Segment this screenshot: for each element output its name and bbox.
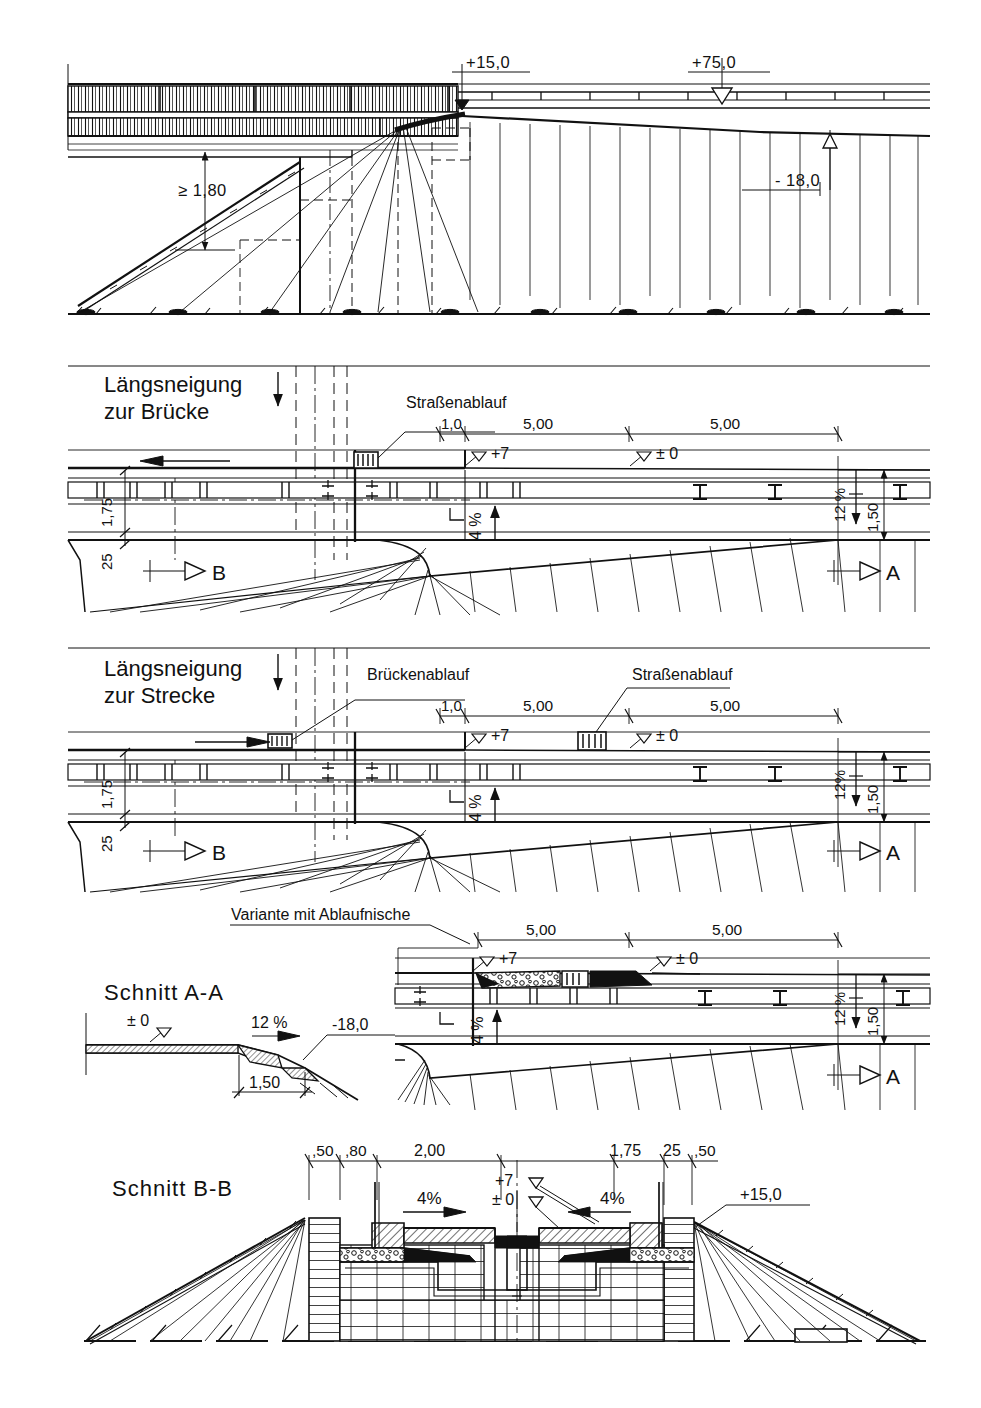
dim-1-75-v2: 1,75 bbox=[98, 498, 115, 527]
bb-slope-4-left: 4% bbox=[417, 1189, 442, 1208]
dim-5-00-a-v3: 5,00 bbox=[523, 697, 554, 714]
section-mark-a-v3: A bbox=[886, 841, 900, 864]
min-clearance-label: ≥ 1,80 bbox=[178, 181, 227, 199]
level-zero-v3: ± 0 bbox=[656, 727, 678, 744]
slope-12-percent-v3: 12% bbox=[831, 770, 848, 800]
view3-title-line2: zur Strecke bbox=[104, 683, 215, 708]
level-plus-7-v3: +7 bbox=[491, 727, 509, 744]
brueckenablauf-symbol-v3 bbox=[268, 734, 292, 748]
bb-dim-50-left: ,50 bbox=[312, 1142, 334, 1159]
bb-dim-50-right: ,50 bbox=[694, 1142, 716, 1159]
slope-12-percent-v2: 12 % bbox=[831, 488, 848, 522]
section-mark-b-v2: B bbox=[212, 561, 226, 584]
dim-1-0-v3: 1,0 bbox=[441, 697, 462, 714]
section-aa-dim-150: 1,50 bbox=[249, 1074, 280, 1091]
slope-4-percent-v2: 4 % bbox=[467, 512, 484, 540]
strassenablauf-symbol-v2 bbox=[354, 452, 378, 468]
bb-level-zero: ± 0 bbox=[492, 1191, 514, 1208]
dim-1-50-v2: 1,50 bbox=[864, 503, 881, 532]
level-plus-75-label: +75,0 bbox=[692, 53, 736, 71]
section-mark-a-v2: A bbox=[886, 561, 900, 584]
variant-level-plus-7: +7 bbox=[499, 950, 517, 967]
bb-dim-2-00: 2,00 bbox=[414, 1142, 445, 1159]
variant-dim-5-00-b: 5,00 bbox=[712, 921, 743, 938]
dim-5-00-a-v2: 5,00 bbox=[523, 415, 554, 432]
slope-4-percent-v3: 4 % bbox=[467, 794, 484, 822]
bb-level-plus-15: +15,0 bbox=[740, 1185, 782, 1203]
callout-brueckenablauf-v3: Brückenablauf bbox=[367, 666, 470, 683]
section-aa-slope-12: 12 % bbox=[251, 1014, 287, 1031]
variant-title: Variante mit Ablaufnische bbox=[231, 906, 410, 923]
level-plus-15-label: +15,0 bbox=[466, 53, 510, 71]
bb-level-plus-7: +7 bbox=[495, 1172, 513, 1189]
variant-level-zero: ± 0 bbox=[676, 950, 698, 967]
variant-dim-5-00-a: 5,00 bbox=[526, 921, 557, 938]
variant-slope-4-percent: 4 % bbox=[469, 1016, 486, 1044]
dim-5-00-b-v2: 5,00 bbox=[710, 415, 741, 432]
variant-dim-1-50: 1,50 bbox=[864, 1007, 881, 1036]
variant-slope-12-percent: 12 % bbox=[831, 992, 848, 1026]
dim-25-v2: 25 bbox=[98, 553, 115, 570]
dim-1-0-v2: 1,0 bbox=[441, 415, 462, 432]
section-aa-title: Schnitt A-A bbox=[104, 980, 224, 1005]
section-aa-level-zero: ± 0 bbox=[127, 1012, 149, 1029]
level-plus-7-v2: +7 bbox=[491, 445, 509, 462]
bb-dim-1-75: 1,75 bbox=[610, 1142, 641, 1159]
view3-title-line1: Längsneigung bbox=[104, 656, 242, 681]
dim-1-50-v3: 1,50 bbox=[864, 785, 881, 814]
strassenablauf-symbol-v3 bbox=[578, 732, 606, 750]
bb-slope-4-right: 4% bbox=[600, 1189, 625, 1208]
callout-strassenablauf-v2: Straßenablauf bbox=[406, 394, 507, 411]
view2-title-line1: Längsneigung bbox=[104, 372, 242, 397]
drawing-canvas: +15,0 +75,0 - 18,0 ≥ 1,80 Längsneigung z… bbox=[0, 0, 981, 1408]
dim-25-v3: 25 bbox=[98, 835, 115, 852]
callout-strassenablauf-v3: Straßenablauf bbox=[632, 666, 733, 683]
view2-title-line2: zur Brücke bbox=[104, 399, 209, 424]
variant-section-mark-a: A bbox=[886, 1065, 900, 1088]
section-aa-level-minus18: -18,0 bbox=[332, 1016, 369, 1033]
level-zero-v2: ± 0 bbox=[656, 445, 678, 462]
level-minus-18-label: - 18,0 bbox=[775, 171, 820, 189]
bb-dim-80: ,80 bbox=[345, 1142, 367, 1159]
drawing-sheet: +15,0 +75,0 - 18,0 ≥ 1,80 Längsneigung z… bbox=[0, 0, 981, 1408]
section-mark-b-v3: B bbox=[212, 841, 226, 864]
dim-1-75-v3: 1,75 bbox=[98, 780, 115, 809]
bb-dim-25: 25 bbox=[663, 1142, 681, 1159]
dim-5-00-b-v3: 5,00 bbox=[710, 697, 741, 714]
section-bb-title: Schnitt B-B bbox=[112, 1176, 233, 1201]
